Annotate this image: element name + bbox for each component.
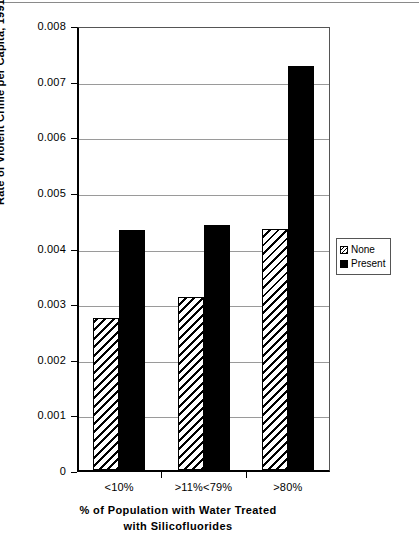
x-axis-title-line-2: with Silicofluorides xyxy=(28,518,328,534)
x-axis-title-line-1: % of Population with Water Treated xyxy=(79,504,276,516)
y-axis-tick-label: 0.007 xyxy=(14,77,66,88)
chart-legend: None Present xyxy=(336,238,391,275)
y-axis-tick-label: 0.004 xyxy=(14,244,66,255)
bar-present-2 xyxy=(288,66,314,470)
y-axis-tick-label: 0.003 xyxy=(14,299,66,310)
y-axis-tick-label: 0.006 xyxy=(14,132,66,143)
y-axis-tick-label: 0 xyxy=(14,466,66,477)
y-axis-tick-label: 0.008 xyxy=(14,21,66,32)
x-axis-category-label: >11%<79% xyxy=(161,481,245,493)
x-axis-category-label: >80% xyxy=(246,481,330,493)
y-axis-tick-label: 0.001 xyxy=(14,410,66,421)
legend-item-present: Present xyxy=(340,257,385,270)
legend-item-none: None xyxy=(340,243,385,256)
bar-present-1 xyxy=(204,225,230,470)
x-axis-category-label: <10% xyxy=(77,481,161,493)
bar-present-0 xyxy=(119,230,145,470)
bar-none-2 xyxy=(262,229,288,470)
plot-area xyxy=(77,27,330,472)
legend-swatch-none-icon xyxy=(340,246,348,254)
y-axis-tick-label: 0.002 xyxy=(14,355,66,366)
legend-label-present: Present xyxy=(351,259,385,269)
x-axis-title: % of Population with Water Treated with … xyxy=(28,502,328,534)
bar-none-1 xyxy=(178,297,204,470)
x-axis-tick-mark xyxy=(246,472,247,478)
violent-crime-bar-chart: Rate of Violent Crime per Capita, 1991 0… xyxy=(0,0,419,537)
bar-none-0 xyxy=(93,318,119,470)
y-axis-tick-mark xyxy=(71,472,77,473)
legend-label-none: None xyxy=(351,245,375,255)
y-axis-title: Rate of Violent Crime per Capita, 1991 xyxy=(0,0,6,205)
x-axis-tick-mark xyxy=(161,472,162,478)
y-axis-tick-label: 0.005 xyxy=(14,188,66,199)
legend-swatch-present-icon xyxy=(340,260,348,268)
